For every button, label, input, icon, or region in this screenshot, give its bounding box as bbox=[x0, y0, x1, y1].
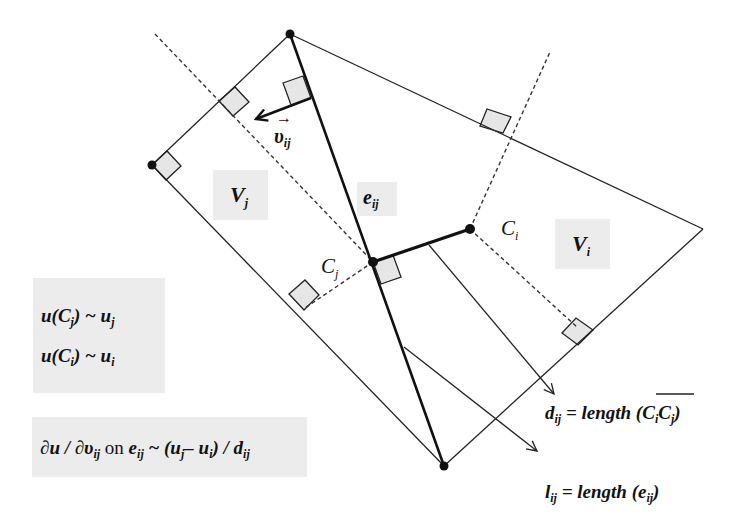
lij-definition: lij = length (eij) bbox=[545, 481, 659, 505]
equation-derivative: ∂u / ∂υij on eij ~ (uj– ui) / dij bbox=[40, 437, 250, 461]
label-vij: → υij bbox=[274, 109, 292, 150]
center-cj bbox=[368, 257, 378, 267]
label-ci: Ci bbox=[501, 216, 518, 243]
label-cj: Cj bbox=[321, 254, 339, 281]
equation-ui: u(Ci) ~ ui bbox=[41, 345, 115, 369]
svg-text:υij: υij bbox=[274, 125, 291, 150]
vertex-bottom bbox=[440, 462, 449, 471]
voronoi-dual-diagram: → υij eij Vj Vi Cj Ci u(Cj) ~ uj u(Ci) ~… bbox=[0, 0, 737, 532]
right-angle-marker bbox=[480, 109, 511, 133]
svg-text:dij = length (CiCj): dij = length (CiCj) bbox=[545, 402, 681, 426]
svg-text:→: → bbox=[276, 109, 292, 126]
dij-definition: dij = length (CiCj) bbox=[545, 394, 694, 426]
vertex-top bbox=[286, 30, 295, 39]
center-ci bbox=[465, 224, 475, 234]
segment-ci-cj bbox=[373, 229, 470, 262]
equation-uj: u(Cj) ~ uj bbox=[41, 305, 115, 329]
edge-top-right bbox=[290, 34, 703, 229]
edge-top-left bbox=[152, 34, 290, 165]
edge-eij bbox=[290, 34, 444, 466]
dij-pointer-arrow bbox=[429, 245, 554, 394]
right-angle-marker bbox=[562, 318, 593, 345]
right-angle-marker bbox=[289, 280, 319, 310]
equation-box-1 bbox=[33, 278, 165, 393]
right-angle-marker bbox=[219, 87, 249, 116]
vertex-left bbox=[148, 161, 157, 170]
